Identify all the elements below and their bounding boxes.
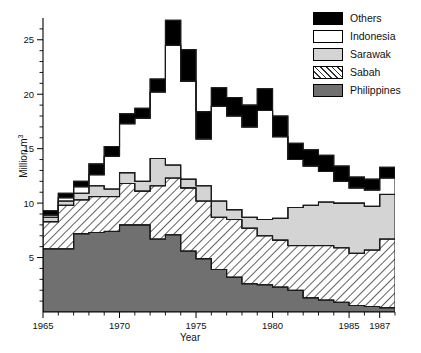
legend-label-sabah: Sabah — [350, 66, 380, 79]
legend-swatch-philippines — [313, 84, 343, 97]
legend-item-sarawak[interactable]: Sarawak — [313, 46, 417, 63]
legend-swatch-sarawak — [313, 48, 343, 61]
x-tick-label: 1987 — [369, 320, 390, 331]
chart-legend: Others Indonesia Sarawak Sabah Philippin… — [313, 10, 417, 100]
x-tick-label: 1985 — [339, 320, 360, 331]
legend-item-others[interactable]: Others — [313, 10, 417, 27]
y-tick-label: 25 — [23, 34, 34, 45]
legend-item-indonesia[interactable]: Indonesia — [313, 28, 417, 45]
legend-item-sabah[interactable]: Sabah — [313, 64, 417, 81]
legend-label-indonesia: Indonesia — [350, 30, 396, 43]
legend-label-philippines: Philippines — [350, 84, 401, 97]
legend-label-sarawak: Sarawak — [350, 48, 391, 61]
x-tick-label: 1970 — [109, 320, 130, 331]
legend-swatch-indonesia — [313, 30, 343, 43]
x-tick-label: 1975 — [185, 320, 206, 331]
legend-swatch-others — [313, 12, 343, 25]
y-axis-title: Million m3 — [17, 111, 29, 201]
legend-swatch-sabah — [313, 66, 343, 79]
x-axis-title: Year — [180, 332, 200, 343]
legend-label-others: Others — [350, 12, 382, 25]
y-tick-label: 5 — [29, 252, 34, 263]
x-tick-label: 1965 — [32, 320, 53, 331]
chart-container: 510152025196519701975198019851987 Millio… — [0, 0, 421, 353]
x-tick-label: 1980 — [262, 320, 283, 331]
y-tick-label: 20 — [23, 89, 34, 100]
legend-item-philippines[interactable]: Philippines — [313, 82, 417, 99]
